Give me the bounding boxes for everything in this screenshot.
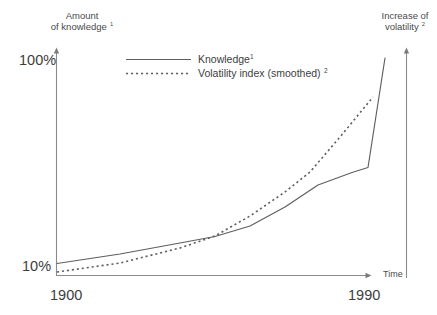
y-axis-right-title-line1: Increase of	[382, 10, 429, 21]
legend-item-knowledge-label: Knowledge	[198, 53, 250, 65]
y-axis-left-title-line1: Amount	[66, 10, 99, 21]
y-tick-label-10: 10%	[22, 258, 51, 275]
legend-item-volatility: Volatility index (smoothed) 2	[198, 67, 328, 79]
series-knowledge-line	[57, 58, 385, 264]
y-axis-left-title: Amount of knowledge 1	[26, 10, 138, 32]
x-tick-label-1990: 1990	[348, 287, 380, 304]
y-axis-left-title-footnote: 1	[110, 21, 113, 27]
x-axis-name: Time	[383, 269, 403, 280]
legend-item-knowledge-footnote: 1	[250, 53, 254, 60]
y-axis-right-title-footnote: 2	[422, 21, 425, 27]
series-volatility-line	[57, 97, 373, 272]
legend-item-volatility-footnote: 2	[324, 67, 328, 74]
chart-container: Amount of knowledge 1 Increase of volati…	[0, 0, 437, 315]
y-tick-label-100: 100%	[19, 52, 56, 69]
x-tick-label-1900: 1900	[50, 287, 82, 304]
y-axis-left-title-line2: of knowledge	[51, 21, 107, 32]
y-axis-right-title: Increase of volatility 2	[372, 10, 437, 32]
legend-item-knowledge: Knowledge1	[198, 53, 254, 65]
legend-item-volatility-label: Volatility index (smoothed)	[198, 67, 321, 79]
chart-plot-area	[0, 0, 437, 315]
y-axis-right-title-line2: volatility	[385, 21, 419, 32]
